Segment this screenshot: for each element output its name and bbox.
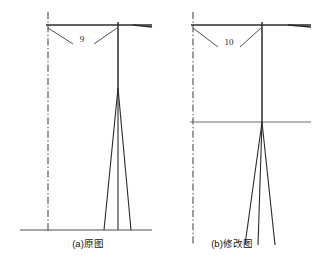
figure-container: 9(a)原图10(b)修改图 [0,0,320,268]
tower-comparison-figure: 9(a)原图10(b)修改图 [0,0,320,268]
caption-panel-a: (a)原图 [72,238,104,249]
caption-panel-b: (b)修改图 [211,238,253,249]
dimension-label-panel-b: 10 [225,37,235,47]
dimension-label-panel-a: 9 [80,34,85,44]
